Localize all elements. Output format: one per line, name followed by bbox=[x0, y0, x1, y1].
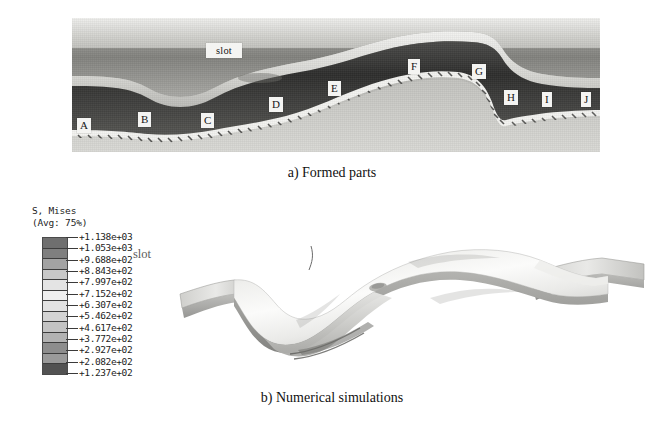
numerical-simulation-panel: S, Mises (Avg: 75%) +1.138e+03+1.053e+03… bbox=[0, 200, 664, 385]
legend-band-0 bbox=[43, 238, 67, 249]
legend-tick-4 bbox=[66, 282, 78, 283]
legend-body: +1.138e+03+1.053e+03+9.688e+02+8.843e+02… bbox=[32, 231, 202, 379]
panel-a-caption: a) Formed parts bbox=[0, 165, 664, 181]
legend-label-11: +2.082e+02 bbox=[79, 357, 132, 367]
legend-tick-5 bbox=[66, 294, 78, 295]
legend-label-1: +1.053e+03 bbox=[79, 243, 132, 253]
legend-tick-3 bbox=[66, 271, 78, 272]
legend-band-3 bbox=[43, 270, 67, 281]
callout-J: J bbox=[581, 92, 591, 107]
legend-label-8: +4.617e+02 bbox=[79, 323, 132, 333]
formed-parts-photo: slot A B C D E F G H I J bbox=[72, 18, 600, 152]
legend-band-7 bbox=[43, 312, 67, 323]
legend-label-6: +6.307e+02 bbox=[79, 300, 132, 310]
legend-band-8 bbox=[43, 322, 67, 333]
slot-leader-line bbox=[309, 246, 312, 270]
legend-label-5: +7.152e+02 bbox=[79, 289, 132, 299]
legend-label-4: +7.997e+02 bbox=[79, 277, 132, 287]
legend-tick-11 bbox=[66, 362, 78, 363]
legend-ticks bbox=[66, 231, 80, 379]
fe-part-render bbox=[178, 202, 648, 382]
legend-label-12: +1.237e+02 bbox=[79, 368, 132, 378]
legend-band-2 bbox=[43, 259, 67, 270]
legend-average: (Avg: 75%) bbox=[32, 217, 202, 229]
legend-label-7: +5.462e+02 bbox=[79, 311, 132, 321]
legend-label-3: +8.843e+02 bbox=[79, 266, 132, 276]
legend-tick-0 bbox=[66, 237, 78, 238]
legend-band-10 bbox=[43, 343, 67, 354]
simulation-slot-label: slot bbox=[133, 247, 151, 262]
panel-b-caption: b) Numerical simulations bbox=[0, 390, 664, 406]
callout-F: F bbox=[408, 59, 420, 74]
stress-legend: S, Mises (Avg: 75%) +1.138e+03+1.053e+03… bbox=[32, 205, 202, 379]
legend-colorbar bbox=[42, 237, 68, 375]
legend-band-5 bbox=[43, 291, 67, 302]
legend-tick-1 bbox=[66, 248, 78, 249]
legend-tick-10 bbox=[66, 350, 78, 351]
legend-tick-12 bbox=[66, 373, 78, 374]
legend-tick-8 bbox=[66, 328, 78, 329]
legend-band-11 bbox=[43, 354, 67, 365]
photo-slot-label: slot bbox=[206, 43, 242, 58]
callout-D: D bbox=[269, 97, 283, 112]
legend-label-10: +2.927e+02 bbox=[79, 345, 132, 355]
callout-C: C bbox=[201, 113, 214, 128]
callout-E: E bbox=[328, 81, 341, 96]
legend-band-4 bbox=[43, 280, 67, 291]
legend-tick-2 bbox=[66, 260, 78, 261]
callout-B: B bbox=[138, 112, 151, 127]
legend-title: S, Mises bbox=[32, 205, 202, 217]
legend-band-6 bbox=[43, 301, 67, 312]
legend-label-0: +1.138e+03 bbox=[79, 232, 132, 242]
legend-label-2: +9.688e+02 bbox=[79, 255, 132, 265]
callout-H: H bbox=[504, 90, 518, 105]
callout-I: I bbox=[542, 92, 552, 107]
callout-G: G bbox=[472, 64, 486, 79]
legend-band-12 bbox=[43, 364, 67, 374]
legend-label-9: +3.772e+02 bbox=[79, 334, 132, 344]
legend-tick-7 bbox=[66, 316, 78, 317]
legend-band-1 bbox=[43, 249, 67, 260]
legend-tick-6 bbox=[66, 305, 78, 306]
callout-A: A bbox=[77, 118, 91, 133]
legend-band-9 bbox=[43, 333, 67, 344]
legend-tick-9 bbox=[66, 339, 78, 340]
